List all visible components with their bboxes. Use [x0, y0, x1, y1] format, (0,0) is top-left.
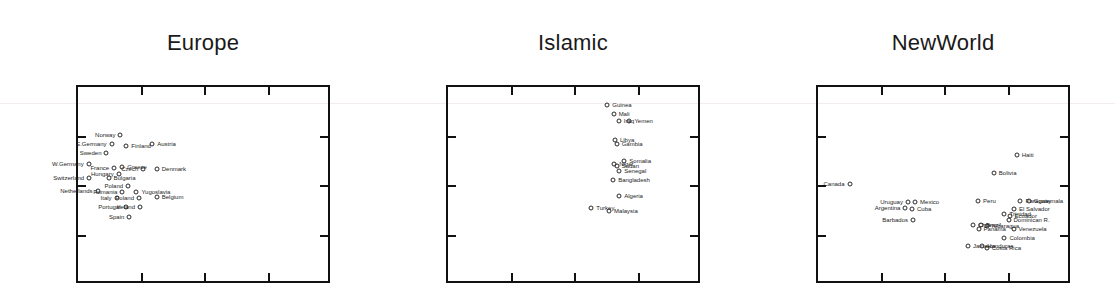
data-point[interactable]: [118, 133, 123, 138]
data-point-label: Mali: [619, 111, 630, 117]
data-point[interactable]: [627, 119, 632, 124]
data-point[interactable]: [141, 166, 146, 171]
data-point[interactable]: [605, 102, 610, 107]
data-point[interactable]: [138, 205, 143, 210]
data-point-label: Bolivia: [999, 170, 1017, 176]
data-point-label: Poland: [115, 195, 134, 201]
data-point[interactable]: [1011, 227, 1016, 232]
data-point[interactable]: [1002, 235, 1007, 240]
data-point-label: Peru: [983, 198, 996, 204]
data-point[interactable]: [911, 218, 916, 223]
panel-title: Europe: [16, 30, 390, 56]
plot-area: NorwayE.GermanyFinlandAustriaSwedenW.Ger…: [76, 85, 330, 283]
data-point[interactable]: [991, 170, 996, 175]
data-point[interactable]: [913, 200, 918, 205]
data-point[interactable]: [1006, 218, 1011, 223]
data-point[interactable]: [965, 243, 970, 248]
data-point[interactable]: [617, 194, 622, 199]
data-point[interactable]: [984, 245, 989, 250]
data-point-label: Italy: [101, 195, 112, 201]
data-point-label: E.Germany: [76, 141, 106, 147]
data-point-label: W.Germany: [52, 161, 84, 167]
data-point[interactable]: [607, 209, 612, 214]
data-point-label: Netherlands: [60, 188, 92, 194]
panel-title: NewWorld: [756, 30, 1115, 56]
data-point-label: Guinea: [612, 102, 631, 108]
data-point[interactable]: [109, 142, 114, 147]
data-point[interactable]: [970, 222, 975, 227]
data-point-label: Senegal: [624, 168, 646, 174]
data-point[interactable]: [611, 111, 616, 116]
data-point-label: Guatemala: [1034, 198, 1063, 204]
data-point-label: Denmark: [162, 166, 186, 172]
data-point-label: Malaysia: [614, 208, 638, 214]
data-point-label: Canada: [823, 181, 844, 187]
data-point[interactable]: [976, 199, 981, 204]
data-point[interactable]: [617, 168, 622, 173]
data-point-label: Gambia: [622, 141, 643, 147]
plot-area: HaitiBoliviaCanadaPeruParaguayGuatemalaU…: [816, 85, 1070, 283]
data-point-label: Belgium: [162, 194, 184, 200]
data-point[interactable]: [120, 189, 125, 194]
data-point[interactable]: [150, 142, 155, 147]
data-point-label: Haiti: [1022, 152, 1034, 158]
data-point-label: Venezuela: [1019, 226, 1047, 232]
data-point[interactable]: [589, 206, 594, 211]
data-point[interactable]: [136, 195, 141, 200]
data-point-label: Bulgaria: [114, 175, 136, 181]
panel-islamic: IslamicGuineaMaliIraqYemenLibyaGambiaSom…: [386, 0, 760, 303]
data-point[interactable]: [126, 183, 131, 188]
data-point[interactable]: [847, 182, 852, 187]
data-point[interactable]: [910, 207, 915, 212]
data-point[interactable]: [1018, 198, 1023, 203]
data-point-label: Algeria: [624, 193, 643, 199]
data-point-label: Finland: [131, 143, 151, 149]
data-point-label: Panama: [984, 226, 1006, 232]
scatterplot-figure: EuropeNorwayE.GermanyFinlandAustriaSwede…: [0, 0, 1115, 303]
data-point-label: Cuba: [917, 206, 931, 212]
data-point-label: Argentina: [875, 205, 901, 211]
data-point-label: Austria: [157, 141, 176, 147]
data-point[interactable]: [976, 227, 981, 232]
data-point[interactable]: [124, 144, 129, 149]
data-point-label: Costa Rica: [992, 245, 1021, 251]
data-point[interactable]: [611, 177, 616, 182]
data-point-label: Norway: [95, 132, 115, 138]
data-point-label: Bangladesh: [618, 177, 650, 183]
data-point-label: Yemen: [634, 118, 652, 124]
data-point-label: Turkey: [596, 205, 614, 211]
data-point[interactable]: [616, 119, 621, 124]
panel-title: Islamic: [386, 30, 760, 56]
data-point[interactable]: [134, 189, 139, 194]
data-point[interactable]: [905, 200, 910, 205]
data-point-label: Barbados: [882, 217, 908, 223]
data-point-label: Czech: [121, 166, 138, 172]
data-point-label: Mexico: [920, 199, 939, 205]
data-point-label: Romania: [93, 189, 117, 195]
data-point[interactable]: [106, 175, 111, 180]
data-point-label: Switzerland: [53, 175, 84, 181]
data-point[interactable]: [112, 165, 117, 170]
data-point-label: Sweden: [80, 150, 102, 156]
data-point[interactable]: [87, 176, 92, 181]
plot-area: GuineaMaliIraqYemenLibyaGambiaSomaliaNig…: [446, 85, 700, 283]
data-point[interactable]: [154, 195, 159, 200]
data-point[interactable]: [903, 206, 908, 211]
data-point[interactable]: [614, 142, 619, 147]
data-point-label: France: [90, 165, 109, 171]
data-point[interactable]: [1014, 152, 1019, 157]
data-point-label: Spain: [109, 214, 124, 220]
panel-europe: EuropeNorwayE.GermanyFinlandAustriaSwede…: [16, 0, 390, 303]
data-point-label: Ireland: [117, 204, 135, 210]
data-point[interactable]: [154, 166, 159, 171]
data-point-label: Colombia: [1009, 235, 1034, 241]
panel-newworld: NewWorldHaitiBoliviaCanadaPeruParaguayGu…: [756, 0, 1115, 303]
data-point[interactable]: [104, 151, 109, 156]
data-point[interactable]: [1026, 199, 1031, 204]
data-point[interactable]: [127, 215, 132, 220]
